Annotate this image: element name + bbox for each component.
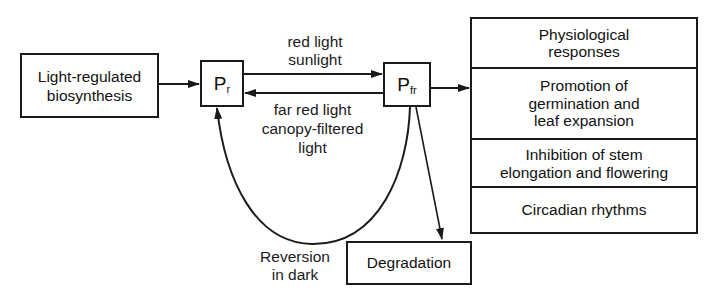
- response-item-circadian: Circadian rhythms: [472, 188, 696, 232]
- response-item-stem-elongation: Inhibition of stem elongation and flower…: [472, 140, 696, 187]
- response-item-germination: Promotion of germination and leaf expans…: [472, 69, 696, 138]
- pfr-label: Pfr: [397, 74, 416, 96]
- biosynthesis-label: Light-regulated biosynthesis: [38, 67, 141, 105]
- responses-box: Physiological responses Promotion of ger…: [470, 17, 698, 234]
- pr-box: Pr: [200, 60, 244, 107]
- reversion-in-dark-label: Reversion in dark: [250, 248, 340, 284]
- biosynthesis-box: Light-regulated biosynthesis: [20, 53, 159, 118]
- degradation-box: Degradation: [346, 241, 472, 285]
- degradation-label: Degradation: [367, 254, 451, 272]
- pr-label: Pr: [214, 73, 230, 95]
- pfr-box: Pfr: [383, 62, 431, 107]
- red-light-label: red light sunlight: [255, 33, 375, 69]
- far-red-light-label: far red light canopy-filtered light: [245, 100, 380, 157]
- responses-header: Physiological responses: [472, 19, 696, 67]
- pfr-to-degradation-arrow: [416, 107, 442, 239]
